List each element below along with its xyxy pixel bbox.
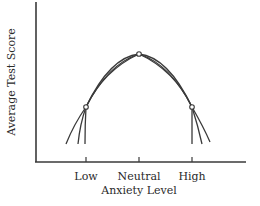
chart: Low Neutral High Anxiety Level Average T… xyxy=(0,0,260,206)
x-axis-label: Anxiety Level xyxy=(100,184,177,197)
x-tick-label-high: High xyxy=(178,170,205,183)
point-high xyxy=(190,105,195,110)
x-tick-label-low: Low xyxy=(74,170,98,183)
point-low xyxy=(84,105,89,110)
curve-middle xyxy=(78,54,202,144)
x-tick-label-neutral: Neutral xyxy=(118,170,161,183)
y-axis-label: Average Test Score xyxy=(5,28,18,137)
point-neutral-peak xyxy=(137,52,142,57)
curve-narrowest xyxy=(85,54,192,144)
